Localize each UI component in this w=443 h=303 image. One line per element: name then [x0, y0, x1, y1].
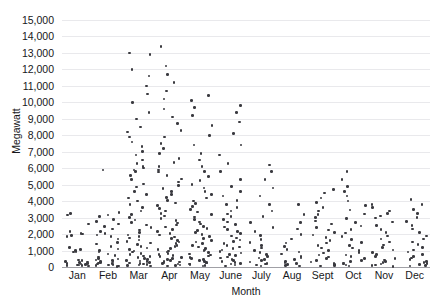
data-point — [70, 234, 73, 237]
data-point — [259, 234, 262, 237]
data-point — [412, 249, 415, 252]
data-point — [363, 213, 366, 216]
data-point — [99, 260, 102, 263]
data-point — [342, 262, 345, 265]
data-point — [348, 244, 351, 247]
data-point — [156, 230, 159, 233]
data-point — [317, 244, 320, 247]
data-point — [137, 256, 140, 259]
data-point — [193, 144, 196, 147]
data-point — [125, 259, 128, 262]
data-point — [190, 99, 193, 102]
data-point — [207, 94, 210, 97]
data-point — [140, 245, 143, 248]
data-point — [318, 254, 321, 257]
data-point — [128, 216, 131, 219]
data-point — [110, 245, 113, 248]
data-point — [66, 214, 69, 217]
data-point — [199, 223, 202, 226]
data-point — [239, 239, 242, 242]
data-point — [128, 248, 131, 251]
data-point — [343, 190, 346, 193]
gridline — [62, 20, 430, 21]
data-point — [286, 248, 289, 251]
data-point — [200, 152, 203, 155]
data-point — [66, 264, 69, 267]
data-point — [69, 230, 72, 233]
data-point — [298, 251, 301, 254]
y-tick-label: 15,000 — [22, 15, 54, 26]
x-tick-label: Apr — [161, 270, 177, 281]
data-point — [203, 187, 206, 190]
data-point — [202, 237, 205, 240]
data-point — [142, 255, 145, 258]
data-point — [327, 256, 330, 259]
data-point — [165, 196, 168, 199]
data-point — [149, 53, 152, 56]
data-point — [332, 188, 335, 191]
gridline — [62, 168, 430, 169]
y-tick-label: 11,000 — [23, 81, 54, 92]
data-point — [346, 170, 349, 173]
data-point — [268, 203, 271, 206]
data-point — [315, 201, 318, 204]
data-point — [207, 175, 210, 178]
data-point — [193, 106, 196, 109]
data-point — [317, 210, 320, 213]
data-point — [166, 258, 169, 261]
data-point — [239, 190, 242, 193]
data-point — [117, 258, 120, 261]
gridline — [62, 185, 430, 186]
data-point — [160, 212, 163, 215]
data-point — [232, 132, 235, 135]
data-point — [126, 264, 129, 267]
data-point — [130, 213, 133, 216]
data-point — [117, 238, 120, 241]
data-point — [236, 230, 239, 233]
data-point — [297, 203, 300, 206]
data-point — [166, 174, 169, 177]
y-tick-label: 7,000 — [28, 146, 54, 157]
data-point — [239, 262, 242, 265]
data-point — [107, 264, 110, 267]
data-point — [263, 258, 266, 261]
data-point — [418, 263, 421, 266]
data-point — [171, 257, 174, 260]
data-point — [148, 111, 151, 114]
y-tick-label: 10,000 — [22, 97, 54, 108]
data-point — [226, 244, 229, 247]
data-point — [226, 256, 229, 259]
data-point — [209, 254, 212, 257]
data-point — [425, 235, 428, 238]
data-point — [346, 185, 349, 188]
data-point — [240, 144, 243, 147]
y-tick-label: 2,000 — [28, 229, 54, 240]
data-point — [138, 235, 141, 238]
data-point — [160, 217, 163, 220]
y-tick-label: 14,000 — [22, 31, 54, 42]
data-point — [103, 225, 106, 228]
data-point — [135, 118, 138, 121]
data-point — [374, 217, 377, 220]
data-point — [358, 251, 361, 254]
data-point — [162, 147, 165, 150]
data-point — [139, 126, 142, 129]
data-point — [129, 203, 132, 206]
data-point — [81, 259, 84, 262]
data-point — [175, 224, 178, 227]
y-tick-label: 4,000 — [28, 196, 54, 207]
data-point — [173, 236, 176, 239]
data-point — [226, 213, 229, 216]
data-point — [221, 260, 224, 263]
data-point — [270, 170, 273, 173]
data-point — [314, 216, 317, 219]
data-point — [196, 229, 199, 232]
data-point — [198, 159, 201, 162]
data-point — [130, 178, 133, 181]
data-point — [315, 226, 318, 229]
data-point — [320, 197, 323, 200]
data-point — [102, 169, 105, 172]
data-point — [346, 195, 349, 198]
data-point — [179, 264, 182, 267]
data-point — [421, 203, 424, 206]
